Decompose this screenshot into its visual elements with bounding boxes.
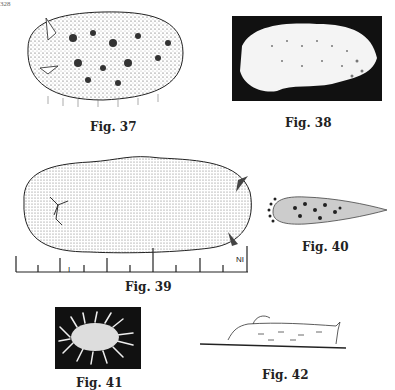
caption-fig-40: Fig. 40 (302, 240, 349, 254)
figure-39-illustration: NI I (10, 152, 260, 274)
figure-41-illustration (55, 307, 141, 369)
figure-40-illustration (265, 190, 390, 235)
scale-label-i: I (68, 265, 70, 274)
caption-fig-41: Fig. 41 (76, 376, 123, 390)
caption-fig-39: Fig. 39 (125, 280, 172, 294)
figure-37-illustration (18, 8, 188, 108)
figure-42-illustration (198, 310, 346, 355)
caption-fig-38: Fig. 38 (285, 116, 332, 130)
figure-38-illustration (232, 16, 382, 101)
page-number: 328 (0, 0, 11, 8)
caption-fig-37: Fig. 37 (90, 120, 137, 134)
scale-label-ni: NI (236, 255, 244, 264)
caption-fig-42: Fig. 42 (262, 368, 309, 382)
